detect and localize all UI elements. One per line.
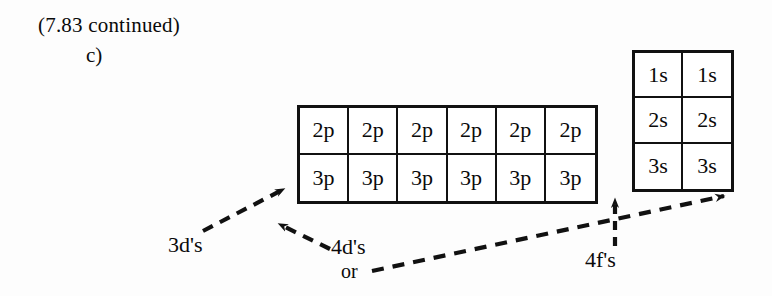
orbital-cell: 2p <box>448 108 497 155</box>
orbital-cell: 1s <box>635 53 683 98</box>
arrow-4d-to-p-grid <box>279 224 330 249</box>
orbital-cell: 2p <box>497 108 546 155</box>
orbital-cell: 3p <box>448 155 497 202</box>
orbital-cell: 3p <box>497 155 546 202</box>
orbital-cell: 2p <box>398 108 447 155</box>
label-4d-orbitals: 4d's <box>331 236 366 258</box>
s-orbital-grid: 1s 1s 2s 2s 3s 3s <box>632 50 734 192</box>
arrow-3d-to-p-grid <box>203 189 284 231</box>
problem-part-label: c) <box>86 44 102 67</box>
orbital-cell: 2s <box>683 98 731 143</box>
label-4f-orbitals: 4f's <box>585 249 616 271</box>
problem-continued-label: (7.83 continued) <box>38 14 180 37</box>
worksheet-figure: (7.83 continued) c) 2p 2p 2p 2p 2p 2p 3p… <box>0 0 772 296</box>
orbital-cell: 3p <box>349 155 398 202</box>
orbital-cell: 1s <box>683 53 731 98</box>
orbital-cell: 2p <box>300 108 349 155</box>
orbital-cell: 3p <box>398 155 447 202</box>
orbital-cell: 3s <box>683 144 731 189</box>
orbital-cell: 3s <box>635 144 683 189</box>
orbital-cell: 3p <box>546 155 595 202</box>
label-3d-orbitals: 3d's <box>168 234 203 256</box>
orbital-cell: 2s <box>635 98 683 143</box>
p-orbital-grid: 2p 2p 2p 2p 2p 2p 3p 3p 3p 3p 3p 3p <box>297 105 598 204</box>
orbital-cell: 3p <box>300 155 349 202</box>
orbital-cell: 2p <box>546 108 595 155</box>
label-or: or <box>341 261 358 281</box>
arrow-or-to-s-grid <box>372 196 724 271</box>
orbital-cell: 2p <box>349 108 398 155</box>
